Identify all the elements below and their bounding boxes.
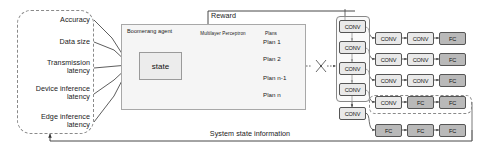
- state-box: state: [139, 52, 182, 80]
- branch-4-block-1[interactable]: CONV: [375, 96, 402, 109]
- backbone-conv-5-label: CONV: [345, 111, 361, 117]
- input-label-accuracy: Accuracy: [14, 16, 90, 24]
- branch-1-block-1[interactable]: CONV: [375, 32, 402, 45]
- branch-3-block-3[interactable]: FC: [439, 74, 466, 87]
- plan-label-1: Plan 1: [263, 38, 281, 46]
- plan-label-n: Plan n: [263, 91, 281, 99]
- reward-label: Reward: [211, 12, 236, 20]
- feedback-label: System state information: [160, 130, 340, 138]
- branch-4-block-2-label: FC: [417, 100, 424, 106]
- backbone-conv-1[interactable]: CONV: [339, 20, 366, 33]
- branch-5-block-2-label: FC: [417, 128, 424, 134]
- agent-title: Boomerang agent: [127, 27, 172, 35]
- branch-3-block-1[interactable]: CONV: [375, 74, 402, 87]
- backbone-conv-4-label: CONV: [345, 87, 361, 93]
- mlp-title: Multilayer Perceptron: [196, 31, 250, 36]
- branch-2-block-1[interactable]: CONV: [375, 53, 402, 66]
- branch-5-block-2[interactable]: FC: [407, 124, 434, 137]
- branch-5-block-3-label: FC: [449, 128, 456, 134]
- branch-2-block-2-label: CONV: [413, 57, 429, 63]
- plan-selector-switch: [303, 60, 336, 72]
- backbone-conv-5[interactable]: CONV: [339, 107, 366, 120]
- branch-3-block-2[interactable]: CONV: [407, 74, 434, 87]
- branch-3-block-1-label: CONV: [381, 78, 397, 84]
- backbone-conv-2-label: CONV: [345, 45, 361, 51]
- branch-2-block-3-label: FC: [449, 57, 456, 63]
- branch-4-block-3-label: FC: [449, 100, 456, 106]
- branch-1-block-2[interactable]: CONV: [407, 32, 434, 45]
- branch-1-block-2-label: CONV: [413, 36, 429, 42]
- backbone-conv-4[interactable]: CONV: [339, 83, 366, 96]
- branch-5-block-1-label: FC: [385, 128, 392, 134]
- input-label-edge-inference-latency: Edge inference latency: [8, 113, 90, 129]
- branch-1-block-1-label: CONV: [381, 36, 397, 42]
- backbone-conv-3-label: CONV: [345, 66, 361, 72]
- diagram-canvas: Accuracy Data size Transmission latency …: [0, 0, 491, 162]
- branch-4-block-3[interactable]: FC: [439, 96, 466, 109]
- backbone-conv-3[interactable]: CONV: [339, 62, 366, 75]
- branch-5-block-1[interactable]: FC: [375, 124, 402, 137]
- plan-label-2: Plan 2: [263, 55, 281, 63]
- branch-3-block-2-label: CONV: [413, 78, 429, 84]
- branch-5-block-3[interactable]: FC: [439, 124, 466, 137]
- branch-2-block-1-label: CONV: [381, 57, 397, 63]
- state-label: state: [152, 62, 169, 71]
- branch-1-block-3[interactable]: FC: [439, 32, 466, 45]
- branch-3-block-3-label: FC: [449, 78, 456, 84]
- plan-label-n-1: Plan n-1: [263, 74, 286, 82]
- branch-4-block-1-label: CONV: [381, 100, 397, 106]
- branch-4-block-2[interactable]: FC: [407, 96, 434, 109]
- plans-title: Plans: [256, 31, 286, 36]
- input-label-transmission-latency: Transmission latency: [10, 59, 90, 75]
- backbone-conv-1-label: CONV: [345, 24, 361, 30]
- branch-1-block-3-label: FC: [449, 36, 456, 42]
- branch-2-block-2[interactable]: CONV: [407, 53, 434, 66]
- input-label-device-inference-latency: Device inference latency: [6, 85, 90, 101]
- branch-2-block-3[interactable]: FC: [439, 53, 466, 66]
- input-label-data-size: Data size: [14, 38, 90, 46]
- backbone-conv-2[interactable]: CONV: [339, 41, 366, 54]
